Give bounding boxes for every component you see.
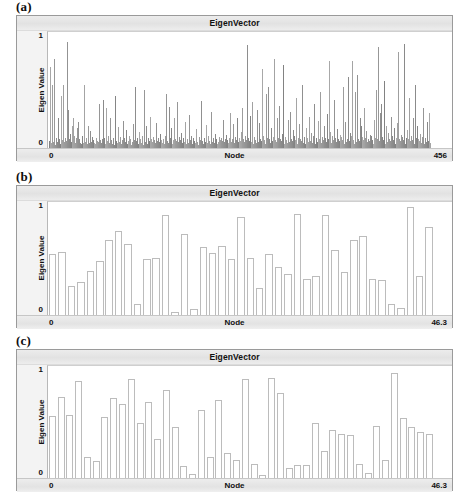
panel-a-plot-area[interactable]	[47, 31, 452, 148]
panel-a-chart-frame: EigenVector 1 0 Eigen Value 0 Node 456	[16, 15, 453, 161]
panel-b-y-axis: 1 0 Eigen Value	[17, 201, 47, 315]
panel-b-y-axis-label: Eigen Value	[37, 236, 46, 281]
bar	[143, 259, 151, 315]
panel-b-y-tick-max: 1	[39, 202, 43, 210]
bar	[134, 304, 142, 315]
bar	[322, 215, 330, 315]
bar	[105, 240, 113, 315]
eigenvector-figure: (a) EigenVector 1 0 Eigen Value 0 Node 4…	[0, 0, 459, 493]
panel-b-x-axis-label: Node	[17, 318, 452, 327]
panel-c-chart-body: 1 0 Eigen Value	[17, 365, 452, 478]
bar	[284, 274, 292, 315]
bar	[283, 65, 284, 148]
bar	[397, 308, 405, 315]
panel-a-x-max: 456	[434, 151, 447, 160]
bar	[224, 453, 231, 478]
bar	[68, 286, 76, 315]
panel-a-chart-body: 1 0 Eigen Value	[17, 31, 452, 148]
panel-c-chart-frame: EigenVector 1 0 Eigen Value 0 Node 46.3	[16, 349, 453, 491]
bar	[416, 276, 424, 315]
panel-a-y-axis-label: Eigen Value	[37, 67, 46, 112]
panel-a-tag: (a)	[0, 0, 459, 15]
bar	[152, 258, 160, 315]
bar	[209, 253, 217, 315]
bar	[172, 427, 179, 478]
bar	[338, 434, 345, 478]
bar	[331, 250, 339, 315]
panel-c-x-axis-label: Node	[17, 481, 452, 490]
bar	[312, 276, 320, 315]
panel-c-x-max: 46.3	[431, 481, 447, 490]
panel-c-tag: (c)	[0, 334, 459, 349]
bar	[242, 379, 249, 478]
bar	[329, 430, 336, 478]
panel-a-chart-title: EigenVector	[17, 16, 452, 31]
panel-c-y-axis: 1 0 Eigen Value	[17, 365, 47, 478]
bar	[321, 451, 328, 478]
bar	[341, 272, 349, 315]
bar	[357, 75, 358, 148]
bar	[265, 254, 273, 315]
panel-c-plot-area[interactable]	[47, 365, 452, 478]
panel-a: (a) EigenVector 1 0 Eigen Value 0 Node 4…	[0, 0, 459, 161]
bar	[426, 434, 433, 478]
bar	[303, 465, 310, 478]
bar	[408, 427, 415, 478]
bar	[166, 94, 167, 148]
panel-b-tag: (b)	[0, 170, 459, 185]
bar	[347, 435, 354, 478]
bar	[400, 418, 407, 478]
bar	[247, 45, 248, 148]
bar	[110, 398, 117, 478]
bar	[312, 423, 319, 479]
bar	[382, 460, 389, 478]
panel-c-y-axis-label: Eigen Value	[37, 399, 46, 444]
bar	[237, 217, 245, 315]
bar	[218, 246, 226, 315]
bar	[181, 234, 189, 315]
bar	[251, 464, 258, 478]
bar	[256, 288, 264, 316]
bar	[119, 404, 126, 478]
bar	[124, 244, 132, 315]
panel-c-bars	[48, 366, 452, 478]
bar	[233, 460, 240, 479]
bar	[84, 457, 91, 478]
bar	[101, 417, 108, 478]
bar	[137, 423, 144, 478]
panel-c-x-axis: 0 Node 46.3	[17, 478, 452, 492]
bar	[66, 415, 73, 478]
bar	[49, 416, 56, 478]
panel-b-y-tick-min: 0	[39, 306, 43, 314]
bar	[268, 378, 275, 478]
panel-b-bars	[48, 202, 452, 315]
bar	[388, 304, 396, 315]
panel-b-chart-frame: EigenVector 1 0 Eigen Value 0 Node 46.3	[16, 185, 453, 328]
panel-b: (b) EigenVector 1 0 Eigen Value 0 Node 4…	[0, 170, 459, 328]
bar	[93, 461, 100, 478]
bar	[58, 252, 66, 315]
bar	[215, 400, 222, 478]
panel-a-x-axis-label: Node	[17, 151, 452, 160]
bar	[407, 207, 415, 315]
bar	[200, 247, 208, 315]
bar	[425, 227, 433, 315]
bar	[275, 267, 283, 315]
bar	[54, 59, 55, 148]
bar	[277, 393, 284, 478]
panel-b-x-max: 46.3	[431, 318, 447, 327]
bar	[228, 259, 236, 315]
panel-a-x-axis: 0 Node 456	[17, 148, 452, 162]
panel-b-plot-area[interactable]	[47, 201, 452, 315]
bar	[49, 254, 57, 315]
bar	[96, 261, 104, 315]
panel-a-y-axis: 1 0 Eigen Value	[17, 31, 47, 148]
bar	[352, 61, 353, 148]
bar	[398, 52, 399, 148]
bar	[294, 214, 302, 315]
bar	[303, 279, 311, 315]
panel-b-chart-body: 1 0 Eigen Value	[17, 201, 452, 315]
bar	[154, 439, 161, 478]
panel-a-y-tick-min: 0	[39, 139, 43, 147]
bar	[77, 282, 85, 315]
